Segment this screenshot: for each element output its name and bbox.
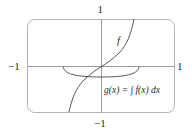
function-graph: 1 −1 −1 1 f g(x) = ∫ f(x) dx — [0, 0, 192, 133]
g-curve-label: g(x) = ∫ f(x) dx — [104, 85, 161, 96]
x-max-label: 1 — [177, 60, 183, 72]
y-min-label: −1 — [94, 117, 106, 129]
y-max-label: 1 — [98, 3, 104, 15]
x-min-label: −1 — [8, 60, 20, 72]
f-curve-label: f — [117, 35, 122, 46]
